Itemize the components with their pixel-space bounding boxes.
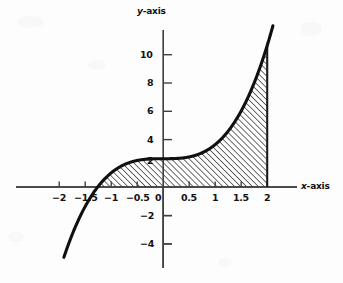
y-tick-label-8: 8	[147, 77, 153, 88]
x-axis-title: x-axis	[301, 181, 330, 191]
y-tick-label-10: 10	[140, 49, 153, 60]
x-tick-label--1.5: −1.5	[74, 192, 98, 203]
x-tick-label-0.5: 0.5	[181, 192, 197, 203]
y-axis-ticks-negative	[163, 216, 172, 244]
y-axis-title-rest: -axis	[143, 6, 166, 16]
x-tick-label-1: 1	[212, 192, 218, 203]
chart-figure	[0, 0, 343, 283]
x-tick-label-1.5: 1.5	[233, 192, 249, 203]
x-tick-label--2: −2	[52, 192, 66, 203]
y-tick-label-2: 2	[147, 155, 153, 166]
y-tick-label-4: 4	[147, 134, 153, 145]
x-tick-label-0: 0	[155, 192, 161, 203]
x-axis-title-rest: -axis	[307, 181, 330, 191]
x-tick-label--0.5: −0.5	[126, 192, 150, 203]
y-tick-label-6: 6	[147, 105, 153, 116]
y-tick-label--4: −4	[140, 238, 154, 249]
y-axis-title: y-axis	[137, 6, 166, 16]
x-tick-label-2: 2	[264, 192, 270, 203]
y-tick-label--2: −2	[140, 210, 154, 221]
x-tick-label--1: −1	[104, 192, 118, 203]
